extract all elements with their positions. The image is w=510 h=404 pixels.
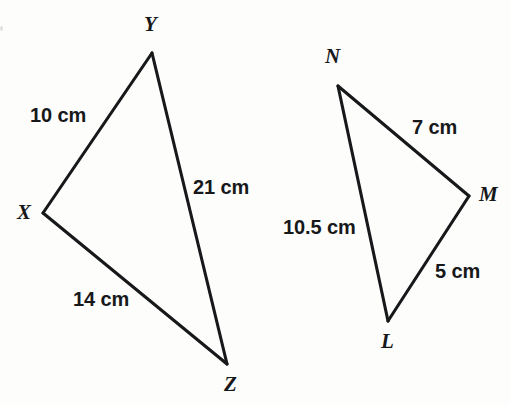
measure-label-nm: 7 cm (412, 117, 457, 137)
vertex-label-x: X (17, 202, 31, 223)
geometry-figure: X Y Z 10 cm 21 cm 14 cm N M L 7 cm 5 cm … (0, 0, 510, 404)
scan-speck (0, 26, 3, 31)
measure-label-yz: 21 cm (193, 177, 249, 197)
triangle-xyz (43, 53, 227, 364)
vertex-label-m: M (479, 184, 498, 205)
edge-ml (388, 196, 469, 321)
vertex-label-z: Z (224, 374, 237, 395)
measure-label-xy: 10 cm (30, 105, 86, 125)
vertex-label-n: N (325, 46, 340, 67)
edge-xy (43, 53, 152, 213)
measure-label-xz: 14 cm (73, 289, 129, 309)
vertex-label-l: L (381, 331, 394, 352)
triangles-drawing (0, 0, 510, 404)
measure-label-ml: 5 cm (435, 261, 480, 281)
measure-label-nl: 10.5 cm (283, 217, 356, 237)
edge-yz (152, 53, 227, 364)
vertex-label-y: Y (144, 14, 157, 35)
edge-xz (43, 213, 227, 364)
